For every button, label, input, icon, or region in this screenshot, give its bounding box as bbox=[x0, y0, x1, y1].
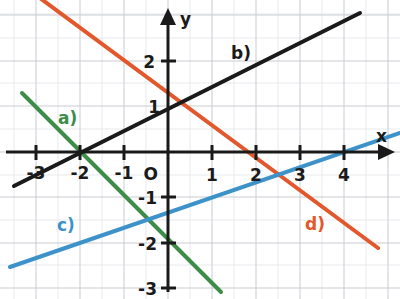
line-b-label: b) bbox=[231, 43, 251, 63]
y-tick-label-2: 2 bbox=[143, 52, 155, 72]
y-tick-label-neg1: -1 bbox=[138, 188, 157, 208]
y-axis-label: y bbox=[180, 9, 191, 29]
x-tick-label-2: 2 bbox=[250, 165, 262, 185]
x-tick-label-neg3: -3 bbox=[27, 163, 46, 183]
x-tick-label-3: 3 bbox=[294, 165, 306, 185]
x-axis-label: x bbox=[376, 126, 387, 146]
x-tick-label-1: 1 bbox=[206, 165, 218, 185]
x-tick-label-neg2: -2 bbox=[71, 163, 90, 183]
graph-figure: -3 -2 -1 1 2 3 4 2 1 -1 -2 -3 O y x a) b… bbox=[0, 0, 400, 299]
y-tick-label-neg3: -3 bbox=[138, 279, 157, 299]
line-a-label: a) bbox=[58, 108, 77, 128]
x-tick-label-neg1: -1 bbox=[115, 163, 134, 183]
x-tick-label-4: 4 bbox=[338, 165, 350, 185]
line-c-label: c) bbox=[57, 215, 75, 235]
y-tick-label-1: 1 bbox=[148, 97, 160, 117]
chart-background bbox=[0, 0, 400, 299]
coordinate-plane-chart: -3 -2 -1 1 2 3 4 2 1 -1 -2 -3 O y x a) b… bbox=[0, 0, 400, 299]
origin-label: O bbox=[144, 164, 158, 184]
line-d-label: d) bbox=[305, 214, 325, 234]
y-tick-label-neg2: -2 bbox=[138, 234, 157, 254]
